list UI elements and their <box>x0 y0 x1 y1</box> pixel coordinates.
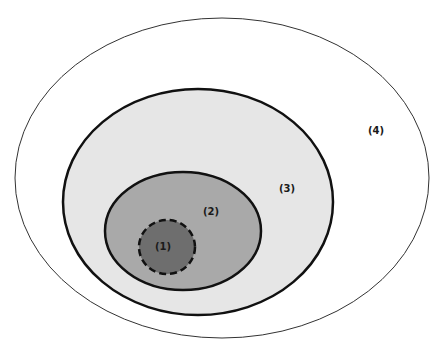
region-3-label: (3) <box>279 183 295 194</box>
nested-ellipse-diagram: (4)(3)(2)(1) <box>0 0 441 349</box>
region-4-label: (4) <box>368 125 384 136</box>
region-2-label: (2) <box>203 206 219 217</box>
region-1-label: (1) <box>155 241 171 252</box>
